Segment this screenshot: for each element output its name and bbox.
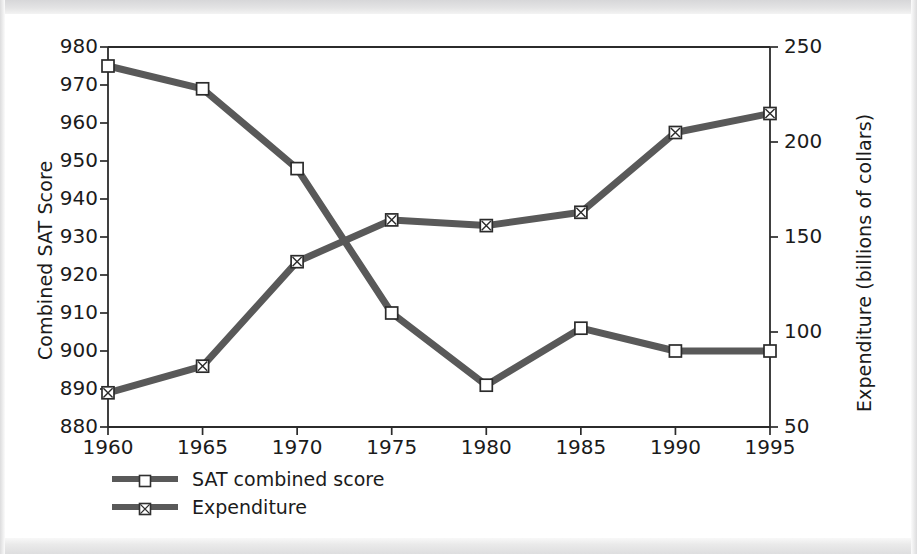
- data-point-marker[interactable]: [669, 345, 681, 357]
- left-tick-label: 950: [44, 148, 98, 172]
- data-point-marker[interactable]: [386, 307, 398, 319]
- chart-legend: SAT combined score Expenditure: [112, 466, 384, 522]
- data-point-marker[interactable]: [764, 345, 776, 357]
- x-tick-label: 1980: [451, 435, 521, 459]
- data-point-marker[interactable]: [386, 214, 398, 226]
- x-tick-label: 1975: [357, 435, 427, 459]
- x-tick-label: 1985: [546, 435, 616, 459]
- legend-item-expenditure[interactable]: Expenditure: [112, 494, 384, 520]
- left-tick-label: 980: [44, 34, 98, 58]
- left-tick-label: 920: [44, 262, 98, 286]
- data-point-marker[interactable]: [102, 387, 114, 399]
- x-tick-label: 1995: [735, 435, 805, 459]
- open-square-icon: [112, 470, 178, 488]
- right-axis-title: Expenditure (billions of collars): [853, 114, 875, 412]
- data-point-marker[interactable]: [575, 322, 587, 334]
- left-tick-label: 890: [44, 376, 98, 400]
- crossed-square-icon: [112, 498, 178, 516]
- legend-label: Expenditure: [192, 496, 307, 518]
- data-point-marker[interactable]: [291, 256, 303, 268]
- right-tick-label: 200: [784, 129, 838, 153]
- data-point-marker[interactable]: [480, 379, 492, 391]
- left-tick-label: 910: [44, 300, 98, 324]
- left-tick-label: 930: [44, 224, 98, 248]
- left-tick-label: 970: [44, 72, 98, 96]
- right-tick-label: 100: [784, 319, 838, 343]
- data-point-marker[interactable]: [575, 206, 587, 218]
- legend-item-sat-combined-score[interactable]: SAT combined score: [112, 466, 384, 492]
- data-point-marker[interactable]: [764, 108, 776, 120]
- right-tick-label: 250: [784, 34, 838, 58]
- x-tick-label: 1970: [262, 435, 332, 459]
- data-point-marker[interactable]: [102, 60, 114, 72]
- data-point-marker[interactable]: [669, 127, 681, 139]
- left-tick-label: 900: [44, 338, 98, 362]
- left-tick-label: 940: [44, 186, 98, 210]
- left-tick-label: 960: [44, 110, 98, 134]
- legend-label: SAT combined score: [192, 468, 384, 490]
- data-point-marker[interactable]: [197, 83, 209, 95]
- data-point-marker[interactable]: [197, 360, 209, 372]
- right-tick-label: 150: [784, 224, 838, 248]
- x-tick-label: 1965: [168, 435, 238, 459]
- data-point-marker[interactable]: [480, 220, 492, 232]
- x-tick-label: 1960: [73, 435, 143, 459]
- data-point-marker[interactable]: [291, 163, 303, 175]
- x-tick-label: 1990: [640, 435, 710, 459]
- dual-axis-line-chart: Combined SAT Score Expenditure (billions…: [0, 0, 917, 554]
